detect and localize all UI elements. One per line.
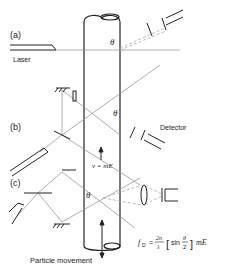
mirror-c (53, 224, 70, 228)
svg-text:2n: 2n (156, 235, 162, 241)
svg-text:θ: θ (183, 235, 186, 241)
laser-doppler-diagram: (a) Laser θ (b) θ Detector v = mE (c) θ … (0, 0, 225, 265)
theta-a: θ (110, 37, 115, 47)
detector-a-beam (120, 28, 166, 50)
laser-a (10, 45, 56, 50)
svg-text:λ: λ (156, 244, 160, 250)
doppler-formula: f D = 2n λ [ sin θ 2 ] mE (138, 235, 207, 250)
svg-text:[: [ (166, 238, 169, 250)
panel-c-label: (c) (10, 178, 21, 188)
svg-text:D: D (142, 242, 146, 248)
svg-text:2: 2 (183, 244, 187, 250)
theta-b: θ (113, 108, 118, 118)
laser-c (9, 203, 24, 224)
svg-text:sin: sin (171, 239, 180, 246)
panel-c-setup (9, 172, 178, 228)
panel-b-label: (b) (10, 122, 21, 132)
svg-text:mE: mE (196, 238, 207, 247)
theta-c: θ (86, 190, 91, 200)
particle-movement-label: Particle movement (30, 256, 93, 265)
svg-text:=: = (149, 239, 153, 246)
lens-c (141, 185, 147, 205)
velocity-label: v = mE (92, 162, 113, 170)
laser-label: Laser (13, 56, 31, 63)
velocity-arrow (99, 147, 103, 160)
detector-label: Detector (160, 124, 187, 131)
detector-c-beam (103, 185, 162, 205)
panel-a-label: (a) (10, 30, 21, 40)
panel-b-setup (10, 65, 165, 185)
detector-a (147, 10, 183, 36)
capillary-tube (84, 14, 120, 251)
svg-text:]: ] (190, 238, 193, 250)
laser-b (10, 148, 48, 176)
detector-c (162, 188, 178, 202)
particle-movement-arrow (100, 220, 104, 258)
